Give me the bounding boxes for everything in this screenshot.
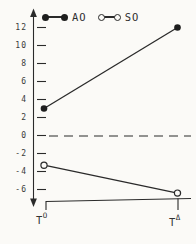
y-axis-arrow-down-icon [30,199,37,208]
x-category-label-right: TΔ [169,214,180,228]
legend-label-so: SO [125,11,140,23]
y-tick-label: -6 [15,185,27,194]
data-point-filled-icon [41,105,48,112]
x-category-left-sup: O [43,211,48,220]
chart-canvas: 121086420-2-4-6 [0,0,196,244]
chart-figure: 121086420-2-4-6 AO SO TO TΔ [0,0,196,244]
x-category-label-left: TO [36,212,47,226]
y-tick-label: 6 [21,77,27,86]
series-line-ao [44,28,178,109]
legend-item-ao: AO [45,11,87,23]
x-category-right-sup: Δ [176,213,181,222]
y-axis-arrow-up-icon [30,9,37,18]
legend-label-ao: AO [72,11,87,23]
y-tick-label: 8 [21,59,27,68]
y-tick-label: 2 [21,113,27,122]
y-tick-label: 4 [21,95,27,104]
x-axis-line [46,199,191,202]
legend-item-so: SO [101,11,140,23]
series-line-so [44,165,178,193]
y-tick-label: 10 [15,41,27,50]
data-point-open-icon [174,190,180,196]
data-point-open-icon [41,162,47,168]
y-tick-label: 12 [15,23,27,32]
x-category-left-base: T [36,214,42,226]
data-point-filled-icon [174,24,181,31]
x-category-right-base: T [169,216,175,228]
filled-dot-line-icon [45,16,65,18]
y-tick-label: -4 [15,167,27,176]
legend: AO SO [45,9,139,25]
y-tick-label: 0 [21,131,27,140]
open-dot-line-icon [101,16,118,17]
y-tick-label: -2 [15,149,27,158]
